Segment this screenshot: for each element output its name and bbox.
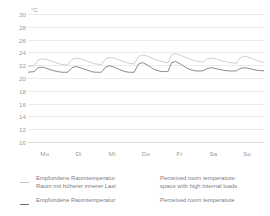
y-axis-tick-14: 14 [0,113,26,120]
legend-label-en-line2: space with high internal loads [160,183,237,189]
y-axis-tick-20: 20 [0,75,26,82]
series-line [28,61,264,72]
legend-label-de-line2: Raum mit höherer innerer Last [36,183,116,189]
y-axis-tick-22: 22 [0,62,26,69]
legend-label-de-line1: Empfundene Raumtemperatur [36,175,115,181]
legend-label-en: Perceived room temperature: space with h… [160,174,268,190]
y-axis-tick-24: 24 [0,49,26,56]
chart-legend: Empfundene Raumtemperatur Raum mit höher… [0,170,270,216]
legend-swatch-line-icon [20,204,29,205]
y-axis-tick-labels: 3028262422201816141210 [0,0,26,170]
chart-series-lines [28,0,264,170]
y-axis-tick-26: 26 [0,36,26,43]
legend-label-en-line1: Perceived room temperature: [160,175,236,181]
chart-screenshot: °C 3028262422201816141210 MoDiMiDoFrSaSo… [0,0,270,216]
legend-label-en-line1: Perceived room temperature [160,197,235,203]
y-axis-tick-10: 10 [0,139,26,146]
y-axis-tick-16: 16 [0,100,26,107]
y-axis-tick-30: 30 [0,11,26,18]
legend-label-de: Empfundene Raumtemperatur Raum mit höher… [36,174,146,190]
legend-swatch-line-icon [20,182,29,183]
temperature-line-chart: °C 3028262422201816141210 MoDiMiDoFrSaSo [0,0,270,170]
legend-label-de: Empfundene Raumtemperatur [36,196,146,204]
legend-label-de-line1: Empfundene Raumtemperatur [36,197,115,203]
y-axis-tick-18: 18 [0,87,26,94]
legend-label-en: Perceived room temperature [160,196,268,204]
y-axis-tick-28: 28 [0,23,26,30]
y-axis-tick-12: 12 [0,126,26,133]
